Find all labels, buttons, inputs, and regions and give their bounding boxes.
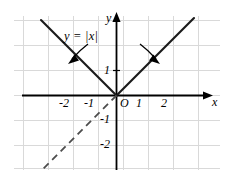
x-tick-label--2: -2 — [59, 97, 69, 109]
y-tick-label-1: 1 — [104, 64, 110, 76]
annotation-arrow-left — [68, 44, 88, 64]
plot-canvas — [0, 0, 231, 179]
equation-label: y = |x| — [64, 30, 98, 43]
curve-right-branch — [117, 18, 195, 96]
origin-label: O — [120, 97, 129, 109]
x-tick-label-2: 2 — [161, 97, 167, 109]
x-tick-label--1: -1 — [84, 97, 94, 109]
x-axis-label: x — [212, 96, 217, 108]
dashed-extension-line — [43, 96, 117, 170]
y-axis-label: y — [106, 12, 111, 24]
y-axis — [112, 12, 120, 170]
y-tick-label--2: -2 — [100, 138, 110, 150]
absolute-value-graph-figure: y = |x| y x O -2 -1 1 2 1 -1 -2 — [0, 0, 231, 179]
x-tick-label-1: 1 — [136, 97, 142, 109]
y-tick-label--1: -1 — [100, 113, 110, 125]
y-axis-arrowhead — [112, 12, 120, 22]
